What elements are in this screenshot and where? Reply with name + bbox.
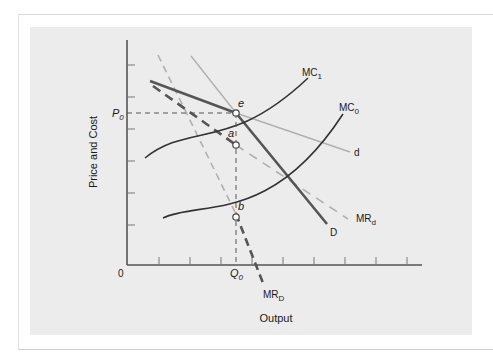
x-axis-label: Output [259, 312, 292, 324]
point-a-label: a [228, 127, 234, 139]
mc0-label: MC0 [339, 102, 360, 116]
mr-D-upper-curve [158, 55, 236, 214]
D-curve [236, 113, 327, 224]
mc1-curve [145, 78, 308, 158]
axes [127, 40, 422, 265]
p0-label: P0 [112, 107, 124, 122]
d-small-label: d [354, 147, 360, 158]
mc0-curve [163, 114, 343, 218]
origin-label: 0 [118, 268, 124, 279]
y-axis-label: Price and Cost [87, 116, 99, 188]
mr-d-label: MRd [356, 213, 376, 227]
point-e [233, 110, 239, 116]
point-b [233, 214, 239, 220]
x-ticks [159, 257, 407, 265]
y-ticks [127, 65, 135, 225]
point-a [233, 142, 239, 148]
mr-D-label: MRD [263, 289, 285, 303]
d-big-label: D [330, 227, 337, 238]
q0-label: Q0 [230, 267, 244, 282]
point-b-label: b [238, 200, 244, 212]
point-e-label: e [238, 97, 244, 109]
mc1-label: MC1 [302, 67, 323, 81]
